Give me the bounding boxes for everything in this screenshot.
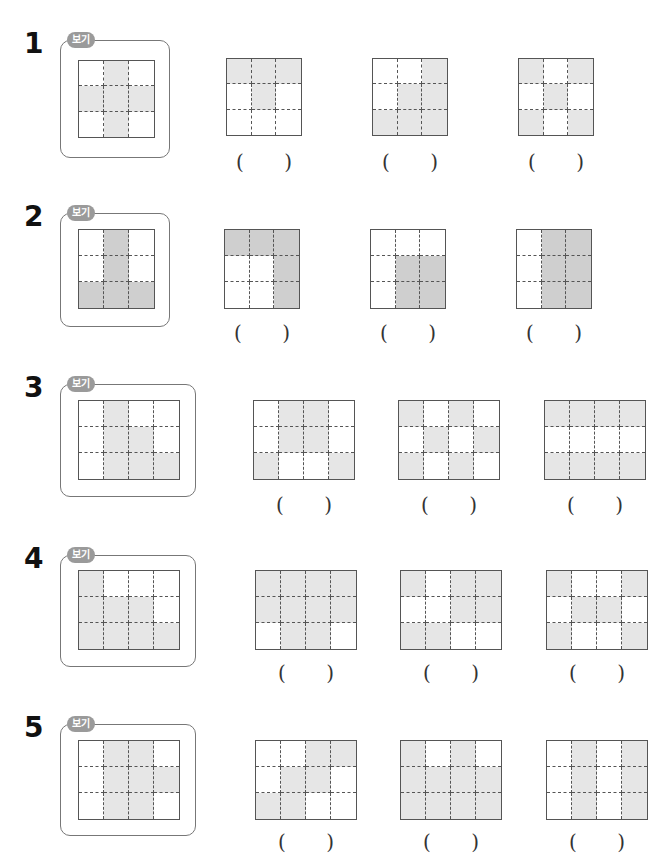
shaded-cell (129, 86, 154, 111)
empty-cell (426, 597, 451, 623)
shaded-cell (622, 767, 647, 793)
shaded-cell (474, 427, 499, 453)
empty-cell (256, 623, 281, 649)
option-grid-2 (400, 570, 502, 650)
shaded-cell (451, 741, 476, 767)
shaded-cell (252, 84, 277, 109)
empty-cell (517, 256, 542, 282)
answer-blank-2[interactable]: () (380, 323, 436, 343)
empty-cell (227, 84, 252, 109)
open-paren: ( (382, 152, 390, 172)
option-grid-1 (255, 570, 357, 650)
open-paren: ( (236, 152, 244, 172)
empty-cell (474, 453, 499, 479)
shaded-cell (274, 256, 299, 282)
example-badge: 보기 (67, 716, 95, 732)
shaded-cell (104, 767, 129, 793)
shaded-cell (420, 256, 445, 282)
empty-cell (129, 571, 154, 597)
shaded-cell (620, 453, 645, 479)
empty-cell (331, 767, 356, 793)
answer-blank-1[interactable]: () (278, 832, 334, 852)
empty-cell (517, 282, 542, 308)
close-paren: ) (282, 323, 290, 343)
empty-cell (597, 793, 622, 819)
empty-cell (154, 741, 179, 767)
shaded-cell (129, 741, 154, 767)
shaded-cell (129, 453, 154, 479)
shaded-cell (449, 401, 474, 427)
answer-blank-3[interactable]: () (569, 832, 625, 852)
answer-blank-3[interactable]: () (567, 495, 623, 515)
shaded-cell (620, 401, 645, 427)
answer-blank-2[interactable]: () (421, 495, 477, 515)
empty-cell (572, 571, 597, 597)
answer-blank-3[interactable]: () (528, 152, 584, 172)
shaded-cell (104, 793, 129, 819)
shaded-cell (104, 401, 129, 427)
shaded-cell (104, 453, 129, 479)
empty-cell (154, 427, 179, 453)
problem-number: 2 (24, 203, 43, 231)
close-paren: ) (576, 152, 584, 172)
answer-blank-1[interactable]: () (276, 495, 332, 515)
shaded-cell (250, 230, 275, 256)
empty-cell (426, 571, 451, 597)
open-paren: ( (423, 663, 431, 683)
option-grid-3 (544, 400, 646, 480)
shaded-cell (519, 59, 544, 84)
shaded-cell (451, 767, 476, 793)
shaded-cell (227, 59, 252, 84)
shaded-cell (451, 793, 476, 819)
answer-blank-2[interactable]: () (423, 663, 479, 683)
shaded-cell (79, 86, 104, 111)
answer-blank-2[interactable]: () (423, 832, 479, 852)
shaded-cell (398, 84, 423, 109)
answer-blank-1[interactable]: () (234, 323, 290, 343)
answer-blank-3[interactable]: () (526, 323, 582, 343)
empty-cell (129, 401, 154, 427)
empty-cell (476, 741, 501, 767)
empty-cell (544, 110, 569, 135)
shaded-cell (129, 623, 154, 649)
empty-cell (79, 61, 104, 86)
shaded-cell (104, 112, 129, 137)
example-badge: 보기 (67, 32, 95, 48)
answer-blank-1[interactable]: () (278, 663, 334, 683)
answer-blank-1[interactable]: () (236, 152, 292, 172)
shaded-cell (547, 571, 572, 597)
shaded-cell (79, 597, 104, 623)
option-grid-1 (224, 229, 300, 309)
empty-cell (474, 401, 499, 427)
example-grid (78, 400, 180, 480)
shaded-cell (304, 427, 329, 453)
shaded-cell (566, 230, 591, 256)
empty-cell (331, 623, 356, 649)
shaded-cell (396, 256, 421, 282)
shaded-cell (449, 453, 474, 479)
answer-blank-2[interactable]: () (382, 152, 438, 172)
shaded-cell (519, 110, 544, 135)
shaded-cell (451, 597, 476, 623)
empty-cell (79, 741, 104, 767)
shaded-cell (129, 793, 154, 819)
shaded-cell (420, 282, 445, 308)
shaded-cell (542, 230, 567, 256)
empty-cell (426, 741, 451, 767)
option-grid-2 (398, 400, 500, 480)
empty-cell (401, 597, 426, 623)
shaded-cell (547, 623, 572, 649)
shaded-cell (281, 767, 306, 793)
empty-cell (281, 741, 306, 767)
answer-blank-3[interactable]: () (569, 663, 625, 683)
shaded-cell (422, 84, 447, 109)
empty-cell (424, 453, 449, 479)
empty-cell (547, 741, 572, 767)
shaded-cell (104, 86, 129, 111)
empty-cell (79, 256, 104, 282)
shaded-cell (401, 571, 426, 597)
shaded-cell (281, 623, 306, 649)
empty-cell (595, 427, 620, 453)
empty-cell (225, 282, 250, 308)
shaded-cell (622, 571, 647, 597)
